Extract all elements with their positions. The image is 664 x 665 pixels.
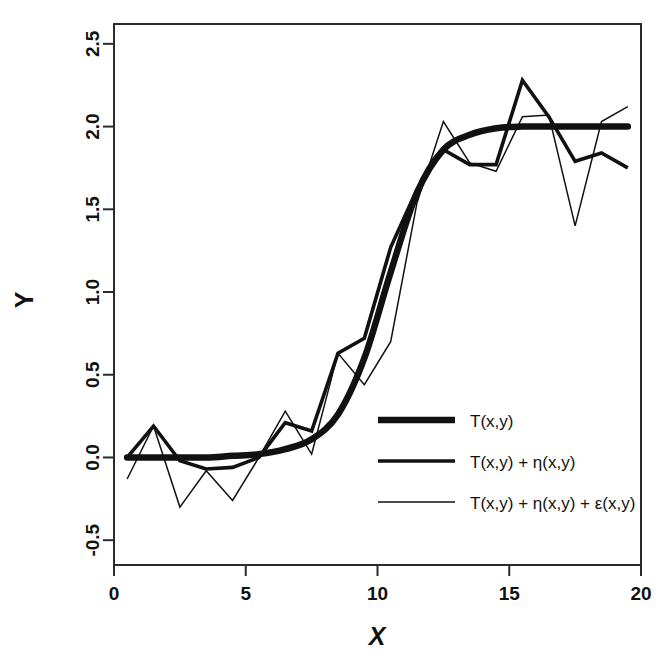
chart-figure: -0.50.00.51.01.52.02.5 05101520 X Y T(x,… (0, 0, 664, 665)
legend-label-t: T(x,y) (470, 412, 513, 431)
y-tick-label: 2.0 (82, 113, 103, 139)
y-tick-label: 0.0 (82, 444, 103, 470)
legend-label-t-eta: T(x,y) + η(x,y) (470, 453, 575, 472)
y-axis-title: Y (10, 291, 38, 308)
x-tick-label: 15 (499, 583, 521, 604)
x-axis-title: X (367, 622, 387, 650)
y-tick-label: 1.5 (82, 196, 103, 223)
y-tick-label: 1.0 (82, 279, 103, 305)
y-tick-label: 0.5 (82, 361, 103, 388)
y-tick-label: 2.5 (82, 30, 103, 57)
x-tick-label: 5 (240, 583, 251, 604)
y-tick-label: -0.5 (82, 523, 103, 556)
x-tick-label: 0 (109, 583, 120, 604)
legend-label-t-eta-eps: T(x,y) + η(x,y) + ε(x,y) (470, 494, 635, 513)
x-tick-label: 10 (367, 583, 388, 604)
x-tick-label: 20 (630, 583, 651, 604)
